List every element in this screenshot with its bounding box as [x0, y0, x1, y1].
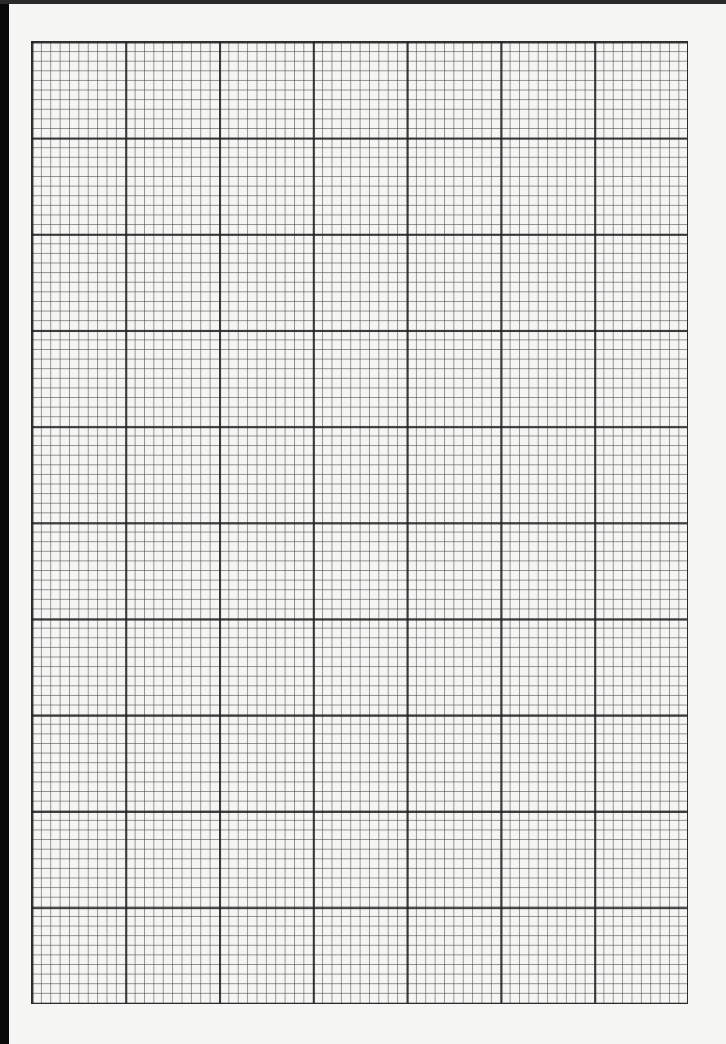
scan-left-edge — [0, 0, 9, 1044]
graph-grid — [31, 41, 688, 1004]
